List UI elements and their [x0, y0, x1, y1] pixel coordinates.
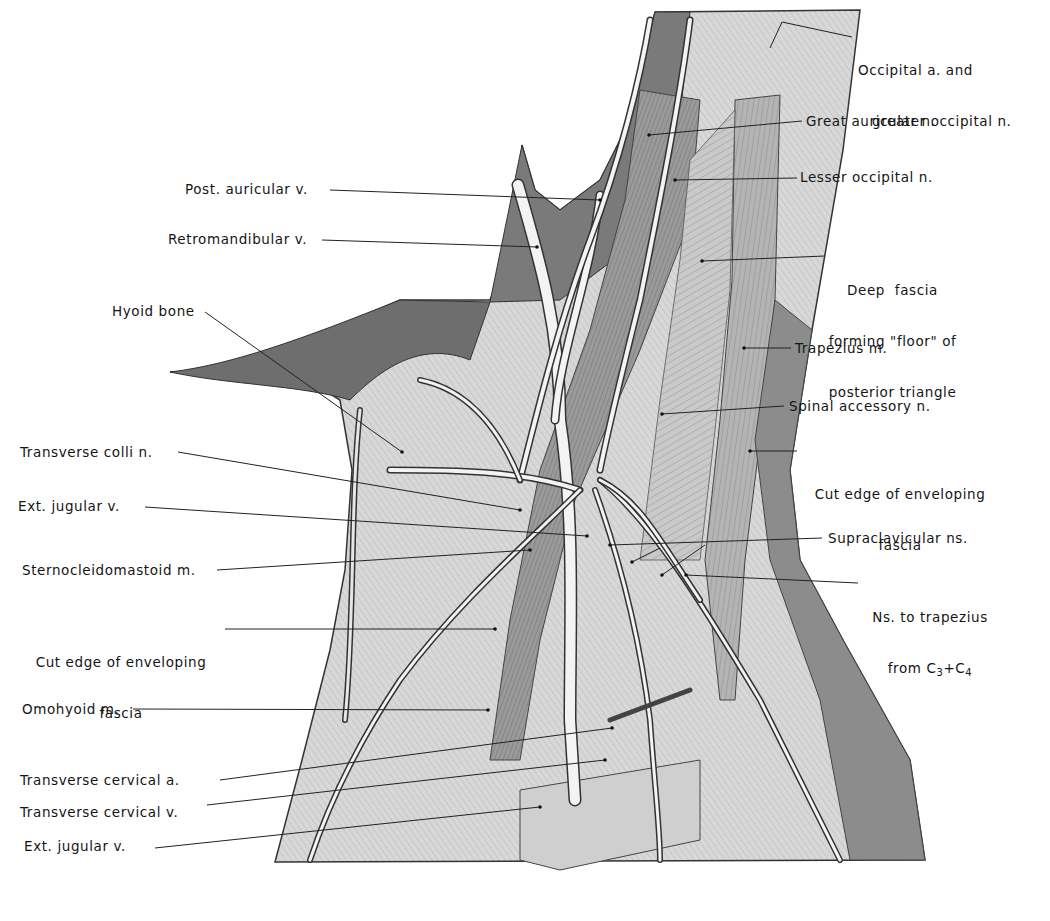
label-post-auricular-v: Post. auricular v. [185, 181, 308, 198]
label-hyoid-bone: Hyoid bone [112, 303, 195, 320]
label-transverse-cervical-a: Transverse cervical a. [20, 772, 180, 789]
label-transverse-cervical-v: Transverse cervical v. [20, 804, 178, 821]
label-lesser-occipital-n: Lesser occipital n. [800, 169, 933, 186]
label-transverse-colli-n: Transverse colli n. [20, 444, 153, 461]
label-ns-to-trapezius: Ns. to trapezius from C3+C4 [860, 575, 1000, 698]
label-cut-edge-right: Cut edge of enveloping fascia [800, 452, 1000, 571]
label-text: +C [943, 660, 965, 676]
label-ext-jugular-v-upper: Ext. jugular v. [18, 498, 120, 515]
label-line: Cut edge of enveloping [26, 654, 216, 671]
neck-outline [170, 10, 925, 862]
label-line: Cut edge of enveloping [800, 486, 1000, 503]
label-supraclavicular-ns: Supraclavicular ns. [828, 530, 968, 547]
label-cut-edge-left: Cut edge of enveloping fascia [26, 620, 216, 739]
label-line: from C3+C4 [860, 660, 1000, 681]
label-ext-jugular-v-lower: Ext. jugular v. [24, 838, 126, 855]
label-omohyoid-m: Omohyoid m. [22, 701, 120, 718]
label-retromandibular-v: Retromandibular v. [168, 231, 307, 248]
label-line: Occipital a. and [858, 62, 1011, 79]
label-deep-fascia: Deep fascia forming "floor" of posterior… [810, 248, 975, 418]
label-trapezius-m: Trapezius m. [795, 340, 887, 357]
label-text: from C [888, 660, 937, 676]
subscript: 4 [965, 667, 972, 678]
label-line: Ns. to trapezius [860, 609, 1000, 626]
label-line: Deep fascia [810, 282, 975, 299]
label-great-auricular-n: Great auricular n. [806, 113, 936, 130]
label-spinal-accessory-n: Spinal accessory n. [789, 398, 931, 415]
label-sternocleidomastoid-m: Sternocleidomastoid m. [22, 562, 196, 579]
